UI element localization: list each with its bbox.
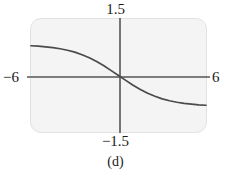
graphing-window-panel bbox=[30, 18, 207, 133]
figure-caption: (d) bbox=[0, 155, 231, 169]
graph-figure: 1.5 −1.5 −6 6 (d) bbox=[0, 0, 231, 178]
x-axis-max-label: 6 bbox=[212, 70, 220, 85]
y-axis-min-label: −1.5 bbox=[0, 134, 231, 149]
x-axis-min-label: −6 bbox=[3, 70, 19, 85]
y-axis-max-label: 1.5 bbox=[0, 2, 231, 17]
